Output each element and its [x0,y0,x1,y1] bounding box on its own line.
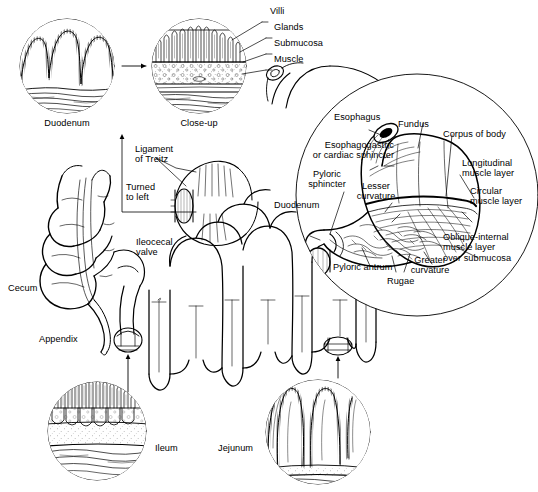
pyloric-antrum-label: Pyloric antrum [333,262,392,272]
jejunum-inset-label: Jejunum [218,443,253,453]
longitudinal-muscle-layer-label: Longitudinal muscle layer [462,158,514,179]
ligament-of-treitz-label: Ligament of Treitz [135,144,173,165]
duodenum-stomach-label: Duodenum [274,200,319,210]
appendix-label: Appendix [39,334,78,344]
circular-muscle-layer-label: Circular muscle layer [470,186,522,207]
muscle-label: Muscle [274,54,303,64]
rugae-label: Rugae [387,276,414,286]
ileocecal-valve-label: Ileocecal valve [136,237,173,258]
esophagogastric-sphincter-label: Esophagogastric or cardiac sphincter [296,140,394,161]
cecum-label: Cecum [8,283,37,293]
figure-canvas: Duodenum Close-up Villi Glands Submucosa… [0,0,538,492]
villi-label: Villi [270,6,284,16]
lesser-curvature-label: Lesser curvature [348,181,404,202]
turned-to-left-label: Turned to left [126,182,155,203]
closeup-inset-label: Close-up [162,118,236,128]
ileum-inset-label: Ileum [155,443,178,453]
fundus-label: Fundus [398,119,429,129]
greater-curvature-label: Greater curvature [403,255,457,276]
duodenum-inset-label: Duodenum [27,118,107,128]
corpus-of-body-label: Corpus of body [443,129,506,139]
esophagus-label: Esophagus [334,112,380,122]
submucosa-label: Submucosa [274,38,323,48]
glands-label: Glands [274,22,303,32]
